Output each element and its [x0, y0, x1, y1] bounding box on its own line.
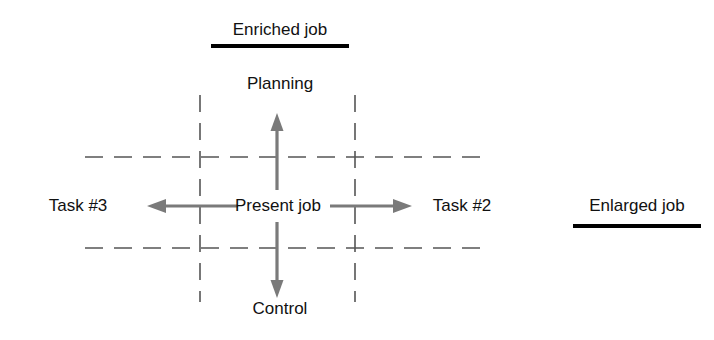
planning-label: Planning: [247, 74, 313, 94]
diagram-canvas: Enriched job Planning Task #3 Present jo…: [0, 0, 714, 340]
task-3-label: Task #3: [49, 196, 108, 216]
present-job-label: Present job: [235, 196, 321, 216]
enlarged-job-title: Enlarged job: [589, 196, 684, 216]
task-2-label: Task #2: [433, 196, 492, 216]
enlarged-job-underline: [573, 224, 701, 228]
arrow-down-icon: [271, 222, 284, 298]
arrow-left-icon: [147, 199, 238, 213]
enriched-job-title: Enriched job: [233, 20, 328, 40]
control-label: Control: [253, 299, 308, 319]
enriched-job-underline: [211, 44, 349, 48]
job-enrichment-diagram: [0, 0, 714, 340]
arrow-right-icon: [330, 199, 412, 213]
arrow-up-icon: [271, 113, 284, 190]
